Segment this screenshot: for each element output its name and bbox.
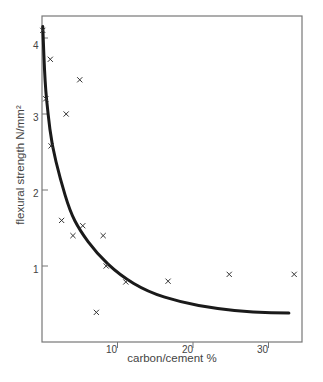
data-point-x-marker xyxy=(70,233,75,238)
x-axis-label: carbon/cement % xyxy=(127,352,217,364)
plot-frame xyxy=(42,16,302,342)
data-point-x-marker xyxy=(165,279,170,284)
data-markers xyxy=(40,28,297,315)
x-tick-label-10: 10 xyxy=(106,344,117,355)
scatter-chart xyxy=(0,0,323,382)
y-tick-label-4: 4 xyxy=(33,40,39,51)
y-axis-label: flexural strength N/mm² xyxy=(14,105,26,225)
trend-curve xyxy=(43,27,289,314)
data-point-x-marker xyxy=(227,272,232,277)
x-tick-label-30: 30 xyxy=(257,344,268,355)
data-point-x-marker xyxy=(48,57,53,62)
y-tick-label-3: 3 xyxy=(33,112,39,123)
data-point-x-marker xyxy=(64,111,69,116)
y-tick-label-2: 2 xyxy=(33,188,39,199)
data-point-x-marker xyxy=(80,223,85,228)
data-point-x-marker xyxy=(292,272,297,277)
data-point-x-marker xyxy=(77,77,82,82)
data-point-x-marker xyxy=(94,310,99,315)
axis-ticks xyxy=(42,38,269,348)
y-tick-label-1: 1 xyxy=(33,264,39,275)
data-point-x-marker xyxy=(59,218,64,223)
data-point-x-marker xyxy=(101,233,106,238)
x-tick-label-20: 20 xyxy=(182,344,193,355)
